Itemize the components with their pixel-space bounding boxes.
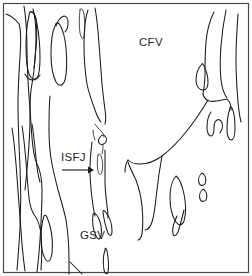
lower-right-vessel-tail — [173, 210, 184, 236]
label-isfj: ISFJ — [61, 152, 86, 164]
isfj-nodule — [99, 135, 107, 144]
gsv-wall-left — [90, 142, 95, 216]
isfj-nodule-tail — [102, 144, 103, 154]
right-hook-vessel — [207, 112, 222, 136]
lower-right-vessel — [170, 176, 186, 225]
arrow-head — [88, 167, 94, 174]
label-gsv: GSV — [80, 230, 105, 242]
right-small-lumen-lower — [200, 189, 207, 201]
lower-left-lumen — [41, 215, 52, 261]
cfv-lobe — [196, 64, 208, 90]
right-thin-lumen — [227, 107, 235, 141]
right-lower-vessel-left — [128, 162, 143, 240]
lower-left-wall-b — [22, 126, 42, 270]
gsv-wall-right — [105, 150, 108, 218]
isfj-pointer-arrow — [62, 167, 94, 174]
left-vessel-group — [6, 6, 69, 274]
cfv-wall-right — [220, 10, 227, 98]
lower-centre-lumen — [103, 248, 108, 274]
centre-top-vessel-right — [95, 8, 106, 124]
gsv-valve-leaflet — [97, 154, 102, 175]
isfj-junction-b — [93, 130, 95, 140]
confluence-sweep — [128, 100, 208, 164]
right-lower-vessel-right — [145, 156, 162, 230]
left-lumen-upper — [26, 12, 40, 79]
centre-top-vessel — [84, 10, 101, 122]
left-lumen-mid — [51, 23, 67, 85]
lower-left-wall-c — [32, 124, 40, 182]
figure-frame: CFV ISFJ GSV — [0, 0, 252, 276]
right-edge-wall — [236, 14, 241, 122]
vessel-tracing-svg — [0, 0, 252, 276]
figure-root: CFV ISFJ GSV — [0, 0, 252, 276]
right-small-lumen-upper — [199, 173, 206, 185]
label-cfv: CFV — [139, 37, 163, 49]
